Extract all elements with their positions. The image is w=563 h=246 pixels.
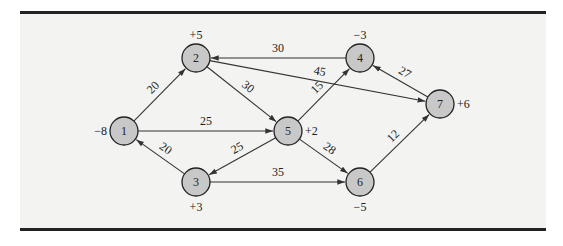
node-7: 7+6 [426, 90, 470, 118]
edge-weight-label: 30 [239, 77, 257, 95]
node-6: 6−5 [346, 168, 374, 214]
node-4: 4−3 [346, 28, 374, 72]
node-number: 2 [193, 51, 199, 65]
edge-6-7: 12 [370, 114, 429, 172]
node-supply-label: −8 [94, 124, 107, 138]
node-supply-label: +6 [457, 97, 470, 111]
node-supply-label: +2 [305, 124, 318, 138]
edge-weight-label: 45 [313, 63, 327, 79]
edge-arrow [209, 138, 276, 175]
edge-weight-label: 28 [321, 139, 339, 157]
edge-weight-label: 20 [144, 78, 162, 96]
edge-4-2: 30 [211, 41, 346, 58]
edge-weight-label: 15 [308, 78, 326, 96]
edge-weight-label: 12 [384, 127, 402, 145]
node-5: 5+2 [274, 117, 318, 145]
nodes: 1−82+53+34−35+26−57+6 [94, 28, 470, 214]
edge-weight-label: 27 [396, 63, 413, 81]
edge-3-1: 20 [136, 139, 184, 174]
edge-weight-label: 25 [229, 139, 246, 157]
edge-arrow [299, 139, 347, 173]
edge-5-6: 28 [299, 139, 347, 173]
node-2: 2+5 [182, 28, 210, 72]
edge-7-4: 27 [373, 63, 428, 97]
node-number: 7 [437, 97, 443, 111]
node-supply-label: +3 [190, 200, 203, 214]
edge-weight-label: 20 [157, 139, 175, 157]
node-number: 4 [357, 51, 363, 65]
edge-1-5: 25 [138, 114, 273, 131]
edge-arrow [207, 67, 276, 122]
node-number: 6 [357, 175, 363, 189]
edge-3-6: 35 [210, 165, 345, 182]
edge-1-2: 20 [134, 69, 186, 121]
node-1: 1−8 [94, 117, 138, 145]
edge-2-5: 30 [207, 67, 276, 122]
edge-arrow [370, 114, 429, 172]
edge-weight-label: 25 [200, 114, 212, 128]
network-graph: 202520304530251528352712 1−82+53+34−35+2… [0, 0, 563, 246]
edge-weight-label: 30 [272, 41, 284, 55]
node-number: 5 [285, 124, 291, 138]
edge-5-3: 25 [209, 138, 276, 175]
edge-weight-label: 35 [272, 165, 284, 179]
node-number: 1 [121, 124, 127, 138]
node-3: 3+3 [182, 168, 210, 214]
node-supply-label: −5 [354, 200, 367, 214]
node-supply-label: −3 [354, 28, 367, 42]
edge-arrow [134, 69, 186, 121]
node-number: 3 [193, 175, 199, 189]
node-supply-label: +5 [190, 28, 203, 42]
edges: 202520304530251528352712 [134, 41, 429, 182]
